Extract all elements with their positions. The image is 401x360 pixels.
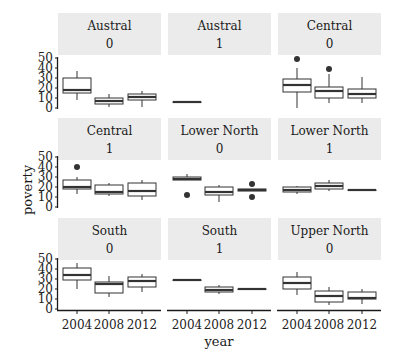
facet-group-label: 1	[326, 142, 334, 156]
outlier-point	[249, 181, 255, 187]
outlier-point	[74, 164, 80, 170]
x-tick-label: 2012	[127, 318, 158, 332]
y-tick-label: 50	[38, 252, 53, 266]
facet-group-label: 0	[216, 142, 224, 156]
facet-group-label: 0	[326, 242, 334, 256]
x-tick-label: 2004	[172, 318, 203, 332]
x-tick-label: 2004	[62, 318, 93, 332]
outlier-point	[184, 192, 190, 198]
x-tick-label: 2012	[347, 318, 378, 332]
facet-region-label: South	[92, 224, 128, 238]
outlier-point	[294, 56, 300, 62]
facet-region-label: Lower North	[180, 124, 258, 138]
box	[315, 87, 343, 98]
x-tick-label: 2012	[237, 318, 268, 332]
faceted-boxplot: Austral001020304050Austral1Central0Centr…	[0, 0, 401, 360]
facet-region-label: Austral	[86, 19, 131, 33]
x-tick-label: 2004	[282, 318, 313, 332]
facet-group-label: 0	[106, 242, 114, 256]
outlier-point	[249, 194, 255, 200]
facet-group-label: 0	[326, 37, 334, 51]
y-tick-label: 50	[38, 150, 53, 164]
x-tick-label: 2008	[94, 318, 125, 332]
facet-group-label: 1	[216, 37, 224, 51]
y-axis-title: poverty	[20, 164, 35, 215]
facet-region-label: Central	[307, 19, 353, 33]
x-tick-label: 2008	[314, 318, 345, 332]
facet-region-label: South	[202, 224, 238, 238]
facet-region-label: Austral	[196, 19, 241, 33]
facet-group-label: 1	[216, 242, 224, 256]
facet-region-label: Upper North	[290, 224, 368, 238]
facet-region-label: Lower North	[290, 124, 368, 138]
x-tick-label: 2008	[204, 318, 235, 332]
y-tick-label: 50	[38, 51, 53, 65]
outlier-point	[326, 66, 332, 72]
facet-group-label: 1	[106, 142, 114, 156]
facet-region-label: Central	[87, 124, 133, 138]
box	[128, 183, 156, 196]
x-axis-title: year	[203, 334, 234, 349]
facet-group-label: 0	[106, 37, 114, 51]
